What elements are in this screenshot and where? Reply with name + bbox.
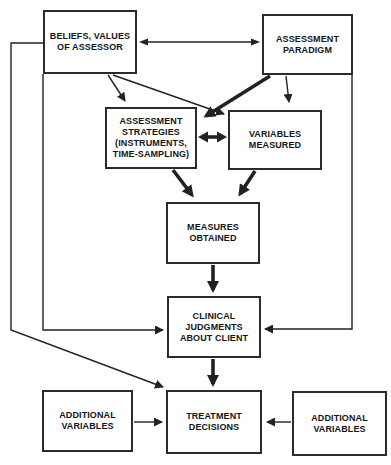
- assessment-flow-diagram: BELIEFS, VALUES OF ASSESSOR ASSESSMENT P…: [0, 0, 391, 465]
- assessment-paradigm-label: ASSESSMENT PARADIGM: [276, 34, 339, 56]
- arrowhead-strategies-variables-right: [217, 132, 227, 143]
- measures-obtained-label: MEASURES OBTAINED: [187, 222, 239, 244]
- box-assessment-strategies: ASSESSMENT STRATEGIES (INSTRUMENTS, TIME…: [105, 107, 197, 169]
- box-beliefs-values-of-assessor: BELIEFS, VALUES OF ASSESSOR: [43, 10, 137, 74]
- variables-measured-label: VARIABLES MEASURED: [249, 129, 301, 151]
- additional-variables-right-label: ADDITIONAL VARIABLES: [311, 413, 368, 435]
- additional-variables-left-label: ADDITIONAL VARIABLES: [59, 410, 116, 432]
- clinical-judgments-label: CLINICAL JUDGMENTS ABOUT CLIENT: [180, 311, 248, 344]
- arrowhead-beliefs-paradigm-left: [139, 39, 148, 46]
- arrowhead-strategies-variables-left: [198, 132, 208, 143]
- arrow-strategies-to-measures: [173, 170, 192, 195]
- box-additional-variables-right: ADDITIONAL VARIABLES: [292, 391, 387, 456]
- treatment-decisions-label: TREATMENT DECISIONS: [186, 411, 242, 433]
- arrow-beliefs-to-treatment: [11, 43, 163, 387]
- box-measures-obtained: MEASURES OBTAINED: [166, 202, 260, 264]
- box-treatment-decisions: TREATMENT DECISIONS: [166, 390, 262, 454]
- arrow-variables-to-measures: [240, 171, 255, 194]
- arrow-paradigm-to-variables: [286, 76, 289, 102]
- box-clinical-judgments-about-client: CLINICAL JUDGMENTS ABOUT CLIENT: [167, 296, 261, 358]
- box-additional-variables-left: ADDITIONAL VARIABLES: [42, 390, 133, 452]
- box-variables-measured: VARIABLES MEASURED: [228, 110, 322, 170]
- arrowhead-beliefs-paradigm-right: [251, 39, 260, 46]
- assessment-strategies-label: ASSESSMENT STRATEGIES (INSTRUMENTS, TIME…: [113, 116, 189, 160]
- box-assessment-paradigm: ASSESSMENT PARADIGM: [262, 14, 353, 75]
- beliefs-values-label: BELIEFS, VALUES OF ASSESSOR: [50, 31, 130, 53]
